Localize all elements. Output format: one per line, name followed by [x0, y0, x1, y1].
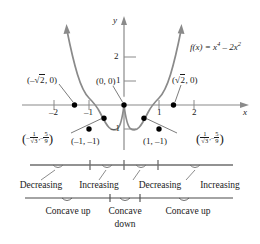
- infl-left-x-den-rad: 3: [34, 137, 37, 144]
- point-inflection-left: [101, 116, 106, 121]
- concavity-number-line: [25, 194, 233, 202]
- function-equation-text: f(x) = x: [190, 42, 217, 52]
- sqrt-symbol-right: √2: [175, 76, 185, 85]
- infl-left-close-paren: ): [49, 131, 53, 146]
- concavity-label-up-1: Concave up: [35, 207, 101, 217]
- root-left-radicand: 2: [39, 74, 45, 85]
- infl-right-x-den-rad: 3: [205, 137, 208, 144]
- function-exponent-2: 2: [238, 40, 241, 47]
- infl-left-x-fraction: 1√3: [30, 131, 39, 146]
- function-equation-label: f(x) = x4 – 2x2: [190, 43, 241, 52]
- point-root-left: [72, 102, 77, 107]
- point-min-right: [156, 126, 161, 131]
- label-inflection-right: (1√3,–59): [196, 131, 224, 146]
- x-axis-label: x: [243, 108, 247, 117]
- y-tick-label-1: 1: [116, 76, 121, 85]
- infl-left-open-paren: (: [22, 131, 26, 146]
- infl-right-close-paren: ): [219, 131, 223, 146]
- monotonicity-label-increasing-2: Increasing: [188, 181, 252, 191]
- label-inflection-left: (–1√3,–59): [22, 131, 53, 146]
- concavity-label-down-line1: Concave: [98, 207, 152, 217]
- curve-arrow-right: [178, 24, 185, 34]
- x-tick-label-2: 2: [192, 108, 197, 117]
- point-root-right: [171, 102, 176, 107]
- infl-left-y-num: 5: [43, 131, 48, 138]
- x-tick-label-neg2: –2: [49, 108, 58, 117]
- x-tick-label-neg1: –1: [84, 108, 93, 117]
- function-equation-mid: – 2x: [220, 42, 238, 52]
- root-right-radicand: 2: [180, 74, 186, 85]
- infl-left-x-den: √3: [30, 137, 39, 145]
- y-tick-label-neg1: –1: [111, 124, 120, 133]
- infl-left-y-fraction: 59: [43, 131, 48, 146]
- label-root-right: (√2, 0): [172, 76, 197, 85]
- y-axis-label: y: [113, 16, 117, 25]
- infl-right-x-num: 1: [200, 131, 209, 138]
- root-right-close: , 0): [185, 75, 197, 85]
- root-left-open: (–: [27, 75, 35, 85]
- root-left-close: , 0): [45, 75, 57, 85]
- monotonicity-number-line: [30, 160, 233, 180]
- infl-left-x-num: 1: [30, 131, 39, 138]
- label-min-right: (1, –1): [143, 137, 167, 146]
- x-tick-label-1: 1: [157, 108, 162, 117]
- y-tick-label-2: 2: [114, 52, 119, 61]
- label-min-left: (–1, –1): [71, 137, 100, 146]
- infl-right-x-den: √3: [200, 137, 209, 145]
- sqrt-symbol-left: √2: [35, 76, 45, 85]
- label-root-left: (–√2, 0): [27, 76, 57, 85]
- point-inflection-right: [141, 116, 146, 121]
- curve-arrow-left: [64, 24, 71, 34]
- y-axis: [121, 16, 127, 150]
- infl-left-y-den: 9: [43, 137, 48, 145]
- monotonicity-label-decreasing-1: Decreasing: [9, 181, 73, 191]
- infl-right-x-fraction: 1√3: [200, 131, 209, 146]
- label-origin: (0, 0): [96, 77, 116, 86]
- concavity-label-down-line2: down: [98, 220, 152, 230]
- point-origin: [121, 102, 126, 107]
- monotonicity-label-decreasing-2: Decreasing: [128, 181, 192, 191]
- point-min-left: [86, 126, 91, 131]
- concavity-label-up-2: Concave up: [155, 207, 221, 217]
- monotonicity-label-increasing-1: Increasing: [68, 181, 130, 191]
